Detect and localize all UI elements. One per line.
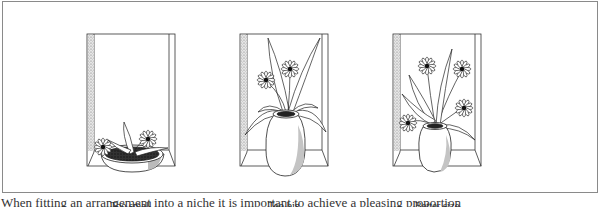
- caption-truncated: When fitting an arrangement into a niche…: [0, 196, 602, 207]
- caption-text: When fitting an arrangement into a niche…: [1, 196, 461, 207]
- niche-illustration-better-size: [0, 0, 602, 200]
